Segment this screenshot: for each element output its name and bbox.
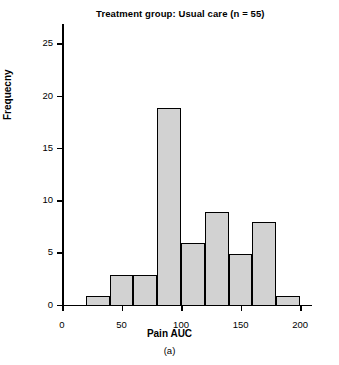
y-tick: 5 xyxy=(57,252,62,254)
histogram-bar xyxy=(133,275,157,306)
y-axis-line xyxy=(62,24,64,306)
y-tick: 10 xyxy=(57,200,62,202)
x-tick: 100 xyxy=(181,306,183,311)
x-tick: 0 xyxy=(62,306,64,311)
histogram-bar xyxy=(252,222,276,306)
chart-title: Treatment group: Usual care (n = 55) xyxy=(96,8,265,19)
histogram-bar xyxy=(157,108,181,306)
y-tick-label: 25 xyxy=(31,36,53,49)
histogram-bar xyxy=(276,296,300,306)
y-tick: 15 xyxy=(57,148,62,150)
y-tick: 20 xyxy=(57,96,62,98)
y-axis-label: Frequecny xyxy=(2,69,13,120)
x-tick: 50 xyxy=(122,306,124,311)
panel-label: (a) xyxy=(0,345,339,356)
y-tick-label: 5 xyxy=(31,245,53,258)
x-tick: 200 xyxy=(300,306,302,311)
histogram-bar xyxy=(181,243,205,306)
histogram-bar xyxy=(86,296,110,306)
y-tick-label: 10 xyxy=(31,193,53,206)
x-axis-label: Pain AUC xyxy=(0,328,339,339)
histogram-bar xyxy=(205,212,229,306)
y-tick: 25 xyxy=(57,43,62,45)
y-tick-label: 15 xyxy=(31,141,53,154)
y-tick-label: 0 xyxy=(31,298,53,311)
x-tick: 150 xyxy=(241,306,243,311)
histogram-bar xyxy=(229,254,253,306)
histogram-bar xyxy=(110,275,134,306)
histogram-figure: Treatment group: Usual care (n = 55) 051… xyxy=(0,0,339,365)
plot-area: 0510152025 050100150200 xyxy=(62,24,312,306)
y-tick-label: 20 xyxy=(31,89,53,102)
